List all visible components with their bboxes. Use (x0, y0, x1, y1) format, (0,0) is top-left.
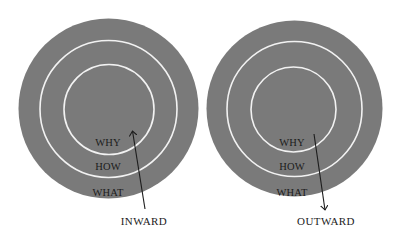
caption-outward: OUTWARD (297, 215, 355, 227)
label-what: WHAT (92, 187, 124, 198)
label-why: WHY (95, 137, 121, 148)
inward-diagram: WHY HOW WHAT INWARD (19, 19, 199, 228)
label-how: HOW (95, 161, 121, 172)
label-how: HOW (279, 161, 305, 172)
golden-circle-diagrams: WHY HOW WHAT INWARD WHY HOW WHAT OUTWARD (0, 0, 405, 244)
outward-diagram: WHY HOW WHAT OUTWARD (207, 21, 383, 228)
label-what: WHAT (276, 187, 308, 198)
caption-inward: INWARD (121, 215, 167, 227)
label-why: WHY (279, 137, 305, 148)
